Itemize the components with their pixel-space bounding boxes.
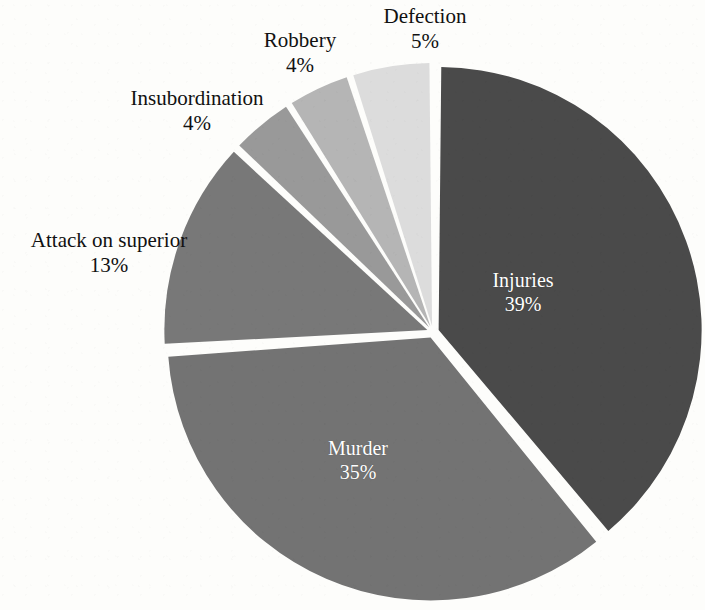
slice-label-robbery: Robbery 4% xyxy=(238,28,362,78)
slice-label-attack-on-superior: Attack on superior 13% xyxy=(2,228,216,278)
slice-label-injuries: Injuries 39% xyxy=(467,268,579,316)
slice-label-insubordination: Insubordination 4% xyxy=(104,86,290,136)
pie-slice-group xyxy=(164,63,701,600)
slice-label-insubordination-value: 4% xyxy=(104,111,290,136)
slice-label-robbery-value: 4% xyxy=(238,53,362,78)
slice-label-robbery-name: Robbery xyxy=(264,28,336,52)
slice-label-injuries-name: Injuries xyxy=(492,269,553,291)
slice-label-attack-on-superior-name: Attack on superior xyxy=(31,228,187,252)
slice-label-defection-name: Defection xyxy=(384,4,467,28)
slice-label-defection-value: 5% xyxy=(360,29,490,54)
slice-label-injuries-value: 39% xyxy=(467,292,579,316)
slice-label-murder-value: 35% xyxy=(300,460,416,484)
slice-label-defection: Defection 5% xyxy=(360,4,490,54)
pie-chart-figure: Defection 5% Robbery 4% Insubordination … xyxy=(0,0,705,610)
slice-label-murder-name: Murder xyxy=(328,437,388,459)
slice-label-attack-on-superior-value: 13% xyxy=(2,253,216,278)
slice-label-murder: Murder 35% xyxy=(300,436,416,484)
slice-label-insubordination-name: Insubordination xyxy=(131,86,264,110)
